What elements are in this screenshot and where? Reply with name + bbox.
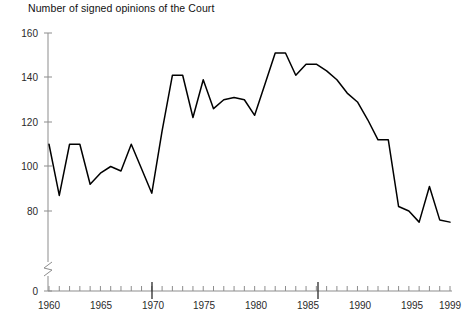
data-line-signed-opinions [49,53,450,222]
x-axis-label-1985: 1985 [297,300,320,311]
x-axis-label-1990: 1990 [349,300,372,311]
x-axis-label-1995: 1995 [401,300,424,311]
y-axis-break-icon [44,262,52,276]
x-axis-label-1999: 1999 [439,300,462,311]
y-axis-label-80: 80 [27,206,39,217]
x-axis-label-1975: 1975 [193,300,216,311]
y-axis-label-160: 160 [21,28,38,39]
y-axis-label-120: 120 [21,117,38,128]
x-axis-label-1970: 1970 [142,300,165,311]
x-axis-label-1980: 1980 [245,300,268,311]
chart-container: Number of signed opinions of the Court 1… [0,0,468,315]
x-minor-tick-group [49,286,450,291]
y-axis-label-140: 140 [21,72,38,83]
y-axis-label-100: 100 [21,161,38,172]
x-axis-label-1960: 1960 [38,300,61,311]
line-chart-svg: 160 140 120 100 80 0 1960 1965 1970 1975… [0,0,468,315]
y-axis-label-0: 0 [32,286,38,297]
x-axis-label-1965: 1965 [90,300,113,311]
